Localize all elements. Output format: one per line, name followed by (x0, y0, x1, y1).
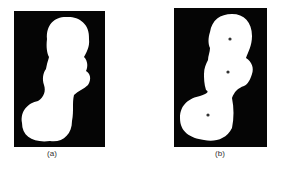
caption-b: (b) (200, 149, 240, 158)
panel-b-image (174, 8, 267, 147)
silhouette-shape-b (174, 8, 267, 147)
silhouette-shape-a (14, 11, 105, 147)
marker-point-2 (226, 70, 229, 73)
marker-point-3 (206, 113, 209, 116)
caption-a: (a) (32, 149, 72, 158)
panel-a-image (14, 11, 105, 147)
marker-point-1 (228, 37, 231, 40)
